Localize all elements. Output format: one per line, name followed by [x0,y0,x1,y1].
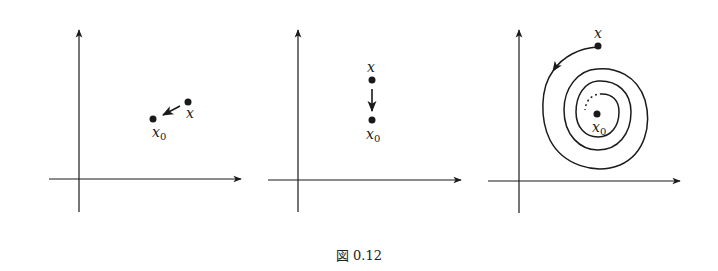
figure-canvas: x x0 x x0 x [0,0,718,271]
start-point [369,77,376,84]
start-label: x [594,25,602,41]
start-point [595,43,602,50]
trajectory-arrow [163,106,180,115]
equilibrium-label: x0 [366,126,380,144]
equilibrium-label: x0 [592,119,606,137]
panel-2: x x0 [268,30,461,212]
equilibrium-point [594,111,601,118]
figure-caption: 図 0.12 [0,245,718,264]
panel-3: x x0 [488,25,680,213]
axes [268,30,461,212]
equilibrium-point [150,116,157,123]
start-label: x [186,105,194,121]
axes [49,30,241,212]
axes [488,30,680,213]
panel-1: x x0 [49,30,241,212]
spiral-trajectory [543,47,648,169]
equilibrium-point [369,117,376,124]
start-label: x [367,59,375,75]
equilibrium-label: x0 [152,124,166,142]
